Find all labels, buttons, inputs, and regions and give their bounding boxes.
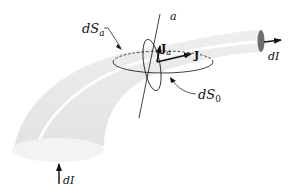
current-tube xyxy=(12,30,265,162)
label-Ja: Ja xyxy=(160,42,171,57)
label-J: J xyxy=(193,49,199,62)
diagram-canvas: dSa dS0 a Ja J dI dI xyxy=(0,0,292,194)
tube-end-cap xyxy=(258,30,265,52)
label-dI-right: dI xyxy=(268,50,280,63)
dS0-leader xyxy=(172,80,196,94)
label-dI-bottom: dI xyxy=(63,174,75,187)
label-dSa: dSa xyxy=(82,21,105,38)
dI-right-arrow xyxy=(264,40,281,42)
current-tube-diagram: dSa dS0 a Ja J dI dI xyxy=(0,0,292,194)
dS0-leader-arrowhead xyxy=(170,77,176,83)
tube-bottom-opening xyxy=(12,138,104,162)
label-axis-a: a xyxy=(170,10,177,23)
label-dS0: dS0 xyxy=(198,87,221,104)
